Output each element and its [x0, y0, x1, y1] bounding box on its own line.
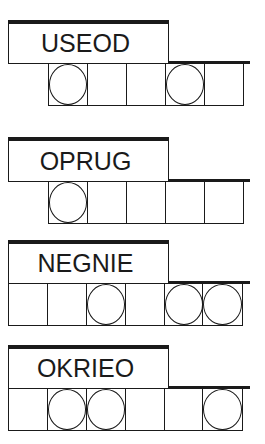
- answer-cell-circled[interactable]: [164, 283, 204, 326]
- answer-cell[interactable]: [204, 181, 244, 224]
- circle-marker-icon: [87, 284, 125, 325]
- circle-marker-icon: [203, 389, 241, 430]
- scrambled-word: OKRIEO: [37, 354, 134, 383]
- scrambled-word: NEGNIE: [38, 249, 134, 278]
- jumble-puzzle-4: OKRIEO: [0, 345, 265, 444]
- scrambled-word-box: OPRUG: [8, 137, 169, 182]
- answer-cell[interactable]: [125, 388, 165, 431]
- answer-cell[interactable]: [87, 63, 127, 106]
- circle-marker-icon: [49, 182, 87, 223]
- answer-cells: [8, 388, 243, 431]
- answer-cell-circled[interactable]: [47, 388, 87, 431]
- answer-cell-circled[interactable]: [202, 283, 242, 326]
- answer-cell[interactable]: [204, 63, 244, 106]
- answer-cell[interactable]: [164, 388, 204, 431]
- answer-cell[interactable]: [8, 283, 48, 326]
- answer-cell-circled[interactable]: [48, 181, 88, 224]
- answer-cell[interactable]: [126, 63, 166, 106]
- scrambled-word: USEOD: [41, 29, 130, 58]
- answer-cell[interactable]: [125, 283, 165, 326]
- jumble-puzzle-2: OPRUG: [0, 137, 265, 237]
- answer-cells: [48, 63, 244, 106]
- answer-cell-circled[interactable]: [202, 388, 242, 431]
- answer-cell[interactable]: [8, 388, 48, 431]
- answer-cell[interactable]: [47, 283, 87, 326]
- circle-marker-icon: [203, 284, 241, 325]
- circle-marker-icon: [166, 64, 204, 105]
- scrambled-word: OPRUG: [40, 147, 132, 176]
- circle-marker-icon: [49, 64, 87, 105]
- answer-cells: [48, 181, 244, 224]
- answer-cell[interactable]: [87, 181, 127, 224]
- answer-cell-circled[interactable]: [86, 283, 126, 326]
- answer-cells: [8, 283, 243, 326]
- scrambled-word-box: NEGNIE: [8, 240, 169, 284]
- circle-marker-icon: [87, 389, 125, 430]
- jumble-puzzle-3: NEGNIE: [0, 240, 265, 340]
- answer-cell-circled[interactable]: [86, 388, 126, 431]
- jumble-puzzle-1: USEOD: [0, 20, 265, 120]
- answer-cell-circled[interactable]: [48, 63, 88, 106]
- scrambled-word-box: USEOD: [8, 20, 169, 64]
- answer-cell[interactable]: [165, 181, 205, 224]
- answer-cell[interactable]: [126, 181, 166, 224]
- circle-marker-icon: [48, 389, 86, 430]
- scrambled-word-box: OKRIEO: [8, 345, 169, 389]
- circle-marker-icon: [165, 284, 203, 325]
- answer-cell-circled[interactable]: [165, 63, 205, 106]
